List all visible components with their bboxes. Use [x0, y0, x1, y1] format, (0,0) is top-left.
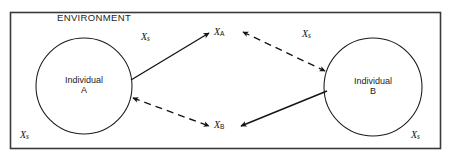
node-label-x-b: XB	[214, 120, 225, 131]
individual-a-label-line2: A	[52, 86, 116, 95]
figure-root: ENVIRONMENT Individual A Individual B XA…	[0, 0, 452, 161]
env-variable-subscript: s	[147, 34, 150, 43]
individual-b-label: Individual B	[341, 77, 405, 97]
individual-a-label: Individual A	[52, 76, 116, 96]
node-label-x-a: XA	[214, 27, 225, 38]
individual-a-label-line1: Individual	[65, 75, 103, 85]
node-label-x-b-subscript: B	[220, 123, 225, 130]
individual-b-label-line2: B	[341, 87, 405, 96]
env-variable-subscript: s	[417, 132, 420, 141]
env-variable-label-top-right: Xs	[302, 29, 311, 40]
env-variable-label-bottom-right: Xs	[411, 130, 420, 141]
edge-xa-to-b	[243, 32, 325, 71]
environment-label: ENVIRONMENT	[57, 13, 131, 23]
env-variable-label-top-left: Xs	[141, 32, 150, 43]
env-variable-subscript: s	[26, 132, 29, 141]
individual-b-label-line1: Individual	[354, 76, 392, 86]
env-variable-subscript: s	[308, 31, 311, 40]
node-label-x-a-subscript: A	[220, 30, 225, 37]
env-variable-label-bottom-left: Xs	[20, 130, 29, 141]
edge-b-to-xb	[241, 91, 327, 126]
edge-a-to-xb	[133, 98, 209, 126]
